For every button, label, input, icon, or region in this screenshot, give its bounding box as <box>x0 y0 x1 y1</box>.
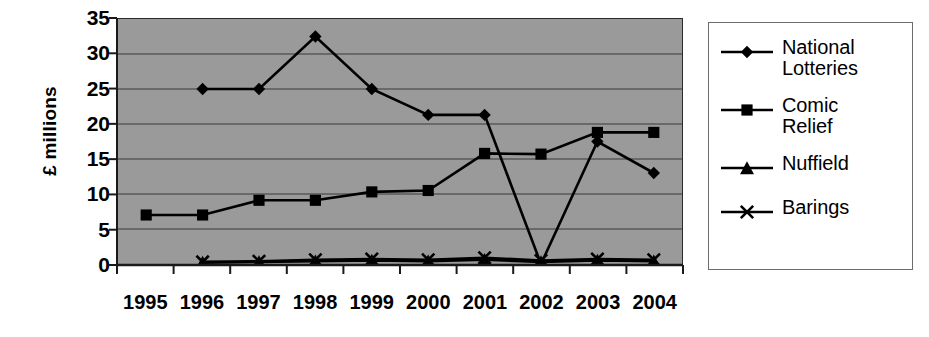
x-tick-label: 2003 <box>568 292 628 312</box>
legend-label: Nuffield <box>782 153 849 174</box>
legend-item[interactable]: Comic Relief <box>719 95 904 137</box>
square-marker <box>479 148 490 159</box>
x-tick-label: 1997 <box>229 292 289 312</box>
legend-label: Comic Relief <box>782 95 838 137</box>
x-tick-label: 1999 <box>342 292 402 312</box>
legend-label: National Lotteries <box>782 37 858 79</box>
x-tick-label: 1996 <box>172 292 232 312</box>
legend-item[interactable]: National Lotteries <box>719 37 904 79</box>
y-tick-label: 20 <box>64 113 110 134</box>
y-tick-label: 10 <box>64 183 110 204</box>
series-line <box>146 132 654 215</box>
diamond-marker <box>478 109 490 121</box>
square-marker <box>741 104 752 115</box>
triangle-marker <box>719 155 775 181</box>
square-marker <box>535 149 546 160</box>
diamond-marker <box>422 109 434 121</box>
square-marker <box>366 186 377 197</box>
x-tick-label: 1998 <box>285 292 345 312</box>
square-marker <box>648 127 659 138</box>
y-tick-label: 25 <box>64 78 110 99</box>
diamond-marker <box>719 39 775 65</box>
y-tick-label: 15 <box>64 148 110 169</box>
y-tick-label: 0 <box>64 254 110 275</box>
chart-legend: National LotteriesComic ReliefNuffieldBa… <box>708 22 913 270</box>
x-axis-tick-labels: 1995199619971998199920002001200220032004 <box>117 292 683 322</box>
y-tick-label: 5 <box>64 219 110 240</box>
plot-area <box>117 18 683 265</box>
x-tick-label: 1995 <box>115 292 175 312</box>
square-marker <box>310 195 321 206</box>
line-chart-figure: £ millions 35302520151050 19951996199719… <box>0 0 929 337</box>
legend-item[interactable]: Nuffield <box>719 153 904 181</box>
square-marker <box>253 195 264 206</box>
square-marker <box>592 127 603 138</box>
y-tick-label: 30 <box>64 42 110 63</box>
plot-series-svg <box>118 19 682 264</box>
series-line <box>203 37 654 265</box>
diamond-marker <box>741 46 753 58</box>
square-marker <box>423 185 434 196</box>
square-marker <box>197 209 208 220</box>
x-tick-label: 2001 <box>455 292 515 312</box>
square-marker <box>719 97 775 123</box>
legend-item[interactable]: Barings <box>719 197 904 225</box>
y-axis-tick-labels: 35302520151050 <box>58 0 110 337</box>
y-tick-label: 35 <box>64 7 110 28</box>
legend-label: Barings <box>782 197 849 218</box>
square-marker <box>141 209 152 220</box>
diamond-marker <box>648 167 660 179</box>
x-marker <box>719 199 775 225</box>
x-tick-label: 2004 <box>625 292 685 312</box>
diamond-marker <box>196 83 208 95</box>
x-tick-label: 2002 <box>512 292 572 312</box>
x-tick-label: 2000 <box>398 292 458 312</box>
